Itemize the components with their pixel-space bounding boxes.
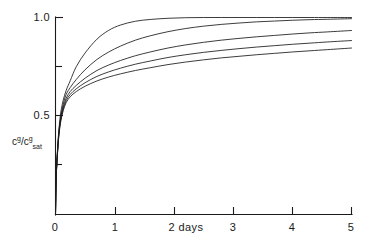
x-tick-label-4: 4: [289, 221, 296, 233]
x-tick-label-1: 1: [112, 221, 119, 233]
chart-figure: 1.0 0.5 0 1 2 days 3 4 5 cg/cgsat: [0, 0, 368, 238]
x-tick-label-0: 0: [52, 221, 59, 233]
x-tick-label-5: 5: [348, 221, 355, 233]
x-tick-label-3: 3: [230, 221, 237, 233]
y-tick-label-1: 1.0: [34, 11, 51, 23]
plot-svg: 1.0 0.5 0 1 2 days 3 4 5 cg/cgsat: [0, 0, 368, 238]
y-axis-label-sup2: g: [29, 135, 33, 143]
y-tick-label-0: 0.5: [34, 109, 51, 121]
x-tick-label-2: 2 days: [169, 221, 204, 233]
y-axis-label-sub2: sat: [33, 143, 42, 150]
